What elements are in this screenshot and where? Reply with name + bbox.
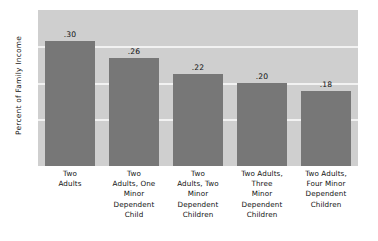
bar-slot-2: .22 [166, 10, 230, 166]
bar-two-adults[interactable]: .30 [45, 41, 95, 166]
x-axis-label-3: Two Adults,ThreeMinorDependentChildren [230, 169, 294, 220]
bar-chart-figure: Percent of Family Income .30 .26 .22 [0, 0, 378, 241]
x-axis-label-2: TwoAdults, TwoMinorDependentChildren [166, 169, 230, 220]
bar-value-label-0: .30 [45, 30, 95, 39]
y-axis-label-container: Percent of Family Income [0, 0, 36, 170]
bar-slot-0: .30 [38, 10, 102, 166]
bar-value-label-4: .18 [301, 80, 351, 89]
bar-value-label-1: .26 [109, 47, 159, 56]
x-axis-label-0: TwoAdults [38, 169, 102, 189]
bar-group: .30 .26 .22 .20 .18 [38, 10, 358, 166]
plot-area: .30 .26 .22 .20 .18 [38, 10, 358, 166]
bar-two-adults-one-child[interactable]: .26 [109, 58, 159, 166]
bar-value-label-2: .22 [173, 63, 223, 72]
bar-two-adults-two-children[interactable]: .22 [173, 74, 223, 166]
x-axis-labels: TwoAdults TwoAdults, OneMinorDependentCh… [38, 169, 358, 239]
bar-two-adults-three-children[interactable]: .20 [237, 83, 287, 166]
bar-slot-1: .26 [102, 10, 166, 166]
y-axis-label: Percent of Family Income [14, 36, 23, 135]
bar-two-adults-four-children[interactable]: .18 [301, 91, 351, 166]
x-axis-label-1: TwoAdults, OneMinorDependentChild [102, 169, 166, 220]
x-axis-label-4: Two Adults,Four MinorDependentChildren [294, 169, 358, 210]
bar-slot-3: .20 [230, 10, 294, 166]
bar-slot-4: .18 [294, 10, 358, 166]
bar-value-label-3: .20 [237, 72, 287, 81]
